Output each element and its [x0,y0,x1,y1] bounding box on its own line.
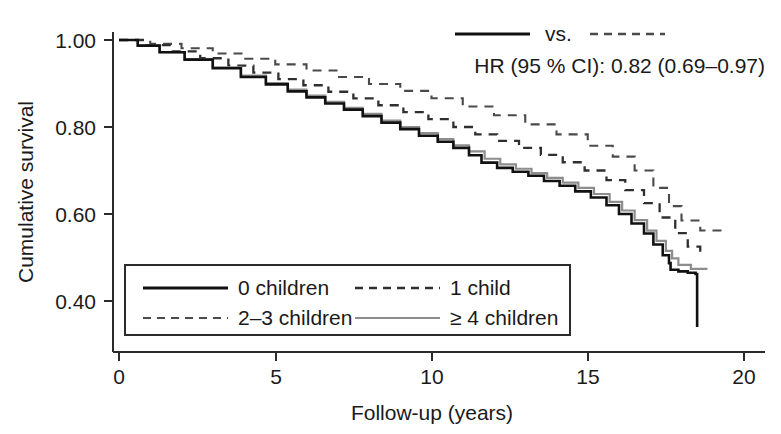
y-axis-title: Cumulative survival [14,101,37,283]
hr-estimate-label: HR (95 % CI): 0.82 (0.69–0.97) [474,54,765,77]
legend-label-4-plus-children: ≥ 4 children [450,306,558,329]
y-tick-label-3: 0.60 [55,203,96,226]
x-tick-label-2: 5 [270,365,282,388]
x-tick-label-5: 20 [732,365,755,388]
curve-0-children [119,40,697,327]
y-tick-label-2: 0.80 [55,116,96,139]
legend: 0 children 1 child 2–3 children ≥ 4 chil… [125,265,570,335]
hr-vs-label: vs. [545,22,572,45]
x-tick-label-3: 10 [420,365,443,388]
y-tick-label-4: 0.40 [55,290,96,313]
y-tick-label-1: 1.00 [55,29,96,52]
chart-canvas: 1.00 0.80 0.60 0.40 Cumulative survival … [0,0,781,434]
x-tick-label-1: 0 [113,365,125,388]
x-axis-title: Follow-up (years) [351,401,513,424]
curves-group [119,40,722,327]
legend-label-0-children: 0 children [238,276,329,299]
legend-label-1-child: 1 child [450,276,511,299]
survival-chart-figure: 1.00 0.80 0.60 0.40 Cumulative survival … [0,0,781,434]
hr-annotation: vs. HR (95 % CI): 0.82 (0.69–0.97) [455,22,765,77]
legend-label-2-3-children: 2–3 children [238,306,352,329]
x-tick-label-4: 15 [576,365,599,388]
